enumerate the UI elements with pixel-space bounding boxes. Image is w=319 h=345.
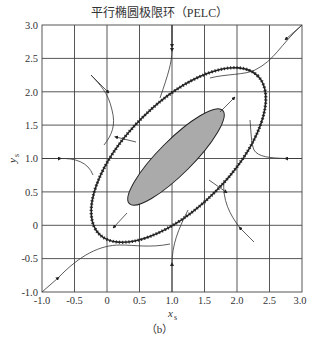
svg-text:3.0: 3.0 [25,20,38,31]
svg-text:2.5: 2.5 [25,53,38,64]
svg-text:2.5: 2.5 [263,295,276,306]
svg-text:3.0: 3.0 [293,295,306,306]
svg-text:y: y [6,158,18,164]
svg-text:0: 0 [104,295,109,306]
svg-text:2.0: 2.0 [230,295,243,306]
figure-caption: （b） [0,320,319,336]
svg-text:1.5: 1.5 [25,120,38,131]
svg-text:2.0: 2.0 [25,87,38,98]
svg-text:-0.5: -0.5 [21,253,38,264]
svg-text:0.5: 0.5 [25,187,38,198]
svg-text:1.0: 1.0 [165,295,178,306]
x-axis-ticks: -1.0 -0.5 0 0.5 1.0 1.5 2.0 2.5 3.0 [34,295,307,306]
phase-portrait: 3.0 2.5 2.0 1.5 1.0 0.5 0 -0.5 -1.0 -1.0… [0,0,319,345]
svg-text:0.5: 0.5 [133,295,146,306]
y-axis-label: y s [6,154,21,164]
obstacle-ellipse [117,98,234,215]
svg-text:x: x [167,307,173,319]
svg-text:1.5: 1.5 [198,295,211,306]
svg-text:1.0: 1.0 [25,153,38,164]
svg-text:-1.0: -1.0 [34,295,51,306]
svg-text:s: s [12,154,21,157]
svg-text:0: 0 [33,220,38,231]
svg-text:-0.5: -0.5 [66,295,83,306]
y-axis-ticks: 3.0 2.5 2.0 1.5 1.0 0.5 0 -0.5 -1.0 [21,20,38,298]
